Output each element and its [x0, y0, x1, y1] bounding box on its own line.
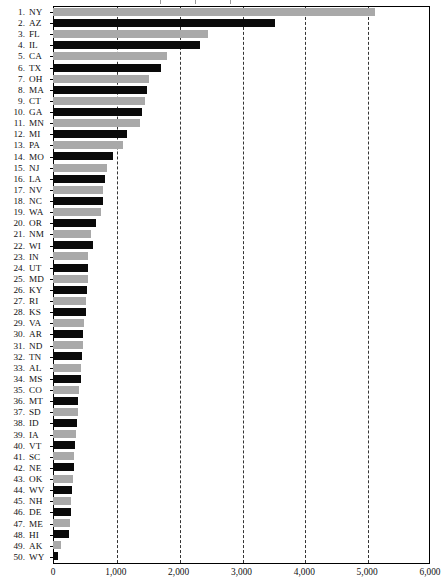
y-axis-label-ks: 28.KS: [6, 307, 49, 318]
rank-number: 25.: [6, 274, 25, 285]
state-abbrev: WI: [29, 241, 49, 252]
bar-hi: [53, 530, 69, 538]
rank-number: 14.: [6, 152, 25, 163]
bar-nj: [53, 164, 107, 172]
y-axis-label-sc: 41.SC: [6, 452, 49, 463]
y-axis-label-ky: 26.KY: [6, 285, 49, 296]
bar-me: [53, 519, 70, 527]
state-abbrev: SD: [29, 407, 49, 418]
table-row: [53, 429, 430, 440]
table-row: [53, 85, 430, 96]
bar-wi: [53, 241, 93, 249]
y-axis-label-wv: 44.WV: [6, 485, 49, 496]
state-abbrev: NJ: [29, 163, 49, 174]
table-row: [53, 174, 430, 185]
x-tick-label: 4,000: [294, 567, 315, 577]
y-axis-label-nm: 21.NM: [6, 229, 49, 240]
rank-number: 3.: [6, 29, 25, 40]
rank-number: 26.: [6, 285, 25, 296]
table-row: [53, 396, 430, 407]
table-row: [53, 340, 430, 351]
state-abbrev: VT: [29, 441, 49, 452]
state-abbrev: RI: [29, 296, 49, 307]
table-row: [53, 63, 430, 74]
state-abbrev: NH: [29, 496, 49, 507]
bar-il: [53, 41, 200, 49]
bar-ga: [53, 108, 142, 116]
rank-number: 16.: [6, 174, 25, 185]
y-axis-label-mn: 11.MN: [6, 118, 49, 129]
rank-number: 28.: [6, 307, 25, 318]
table-row: [53, 218, 430, 229]
bar-wy: [53, 552, 58, 560]
bar-or: [53, 219, 96, 227]
bar-mi: [53, 130, 127, 138]
rank-number: 13.: [6, 140, 25, 151]
state-abbrev: ID: [29, 418, 49, 429]
table-row: [53, 107, 430, 118]
bar-nh: [53, 497, 71, 505]
table-row: [53, 207, 430, 218]
table-row: [53, 118, 430, 129]
state-abbrev: TX: [29, 63, 49, 74]
table-row: [53, 263, 430, 274]
rank-number: 33.: [6, 363, 25, 374]
state-abbrev: NY: [29, 7, 49, 18]
bar-ne: [53, 463, 74, 471]
table-row: [53, 474, 430, 485]
table-row: [53, 163, 430, 174]
state-abbrev: MA: [29, 85, 49, 96]
y-axis-label-wy: 50.WY: [6, 552, 49, 563]
state-abbrev: OK: [29, 474, 49, 485]
rank-number: 1.: [6, 7, 25, 18]
state-abbrev: MS: [29, 374, 49, 385]
table-row: [53, 551, 430, 562]
state-abbrev: WA: [29, 207, 49, 218]
rank-number: 29.: [6, 318, 25, 329]
y-axis-label-nj: 15.NJ: [6, 163, 49, 174]
rank-number: 34.: [6, 374, 25, 385]
state-abbrev: WV: [29, 485, 49, 496]
y-axis-label-co: 35.CO: [6, 385, 49, 396]
table-row: [53, 296, 430, 307]
table-row: [53, 229, 430, 240]
table-row: [53, 418, 430, 429]
rank-number: 40.: [6, 441, 25, 452]
bar-ri: [53, 297, 86, 305]
y-axis-label-ri: 27.RI: [6, 296, 49, 307]
bar-de: [53, 508, 71, 516]
rank-number: 50.: [6, 552, 25, 563]
state-abbrev: MD: [29, 274, 49, 285]
state-abbrev: AK: [29, 541, 49, 552]
table-row: [53, 363, 430, 374]
y-axis-label-wi: 22.WI: [6, 241, 49, 252]
table-row: [53, 440, 430, 451]
bar-ca: [53, 52, 167, 60]
table-row: [53, 40, 430, 51]
bar-fl: [53, 30, 208, 38]
y-axis-label-hi: 48.HI: [6, 530, 49, 541]
table-row: [53, 51, 430, 62]
bar-az: [53, 19, 275, 27]
x-tick-label: 6,000: [419, 567, 440, 577]
y-axis-label-ga: 10.GA: [6, 107, 49, 118]
state-abbrev: MI: [29, 129, 49, 140]
rank-number: 4.: [6, 40, 25, 51]
clipped-tick: [195, 0, 196, 4]
state-abbrev: NM: [29, 229, 49, 240]
bar-ks: [53, 308, 86, 316]
state-abbrev: CO: [29, 385, 49, 396]
rank-number: 21.: [6, 229, 25, 240]
y-axis-label-or: 20.OR: [6, 218, 49, 229]
bar-mn: [53, 119, 140, 127]
y-axis-label-sd: 37.SD: [6, 407, 49, 418]
rank-number: 6.: [6, 63, 25, 74]
rank-number: 24.: [6, 263, 25, 274]
state-abbrev: VA: [29, 318, 49, 329]
state-abbrev: HI: [29, 530, 49, 541]
table-row: [53, 329, 430, 340]
state-abbrev: NV: [29, 185, 49, 196]
y-axis-label-nd: 31.ND: [6, 341, 49, 352]
state-abbrev: AZ: [29, 18, 49, 29]
y-axis-label-nc: 18.NC: [6, 196, 49, 207]
